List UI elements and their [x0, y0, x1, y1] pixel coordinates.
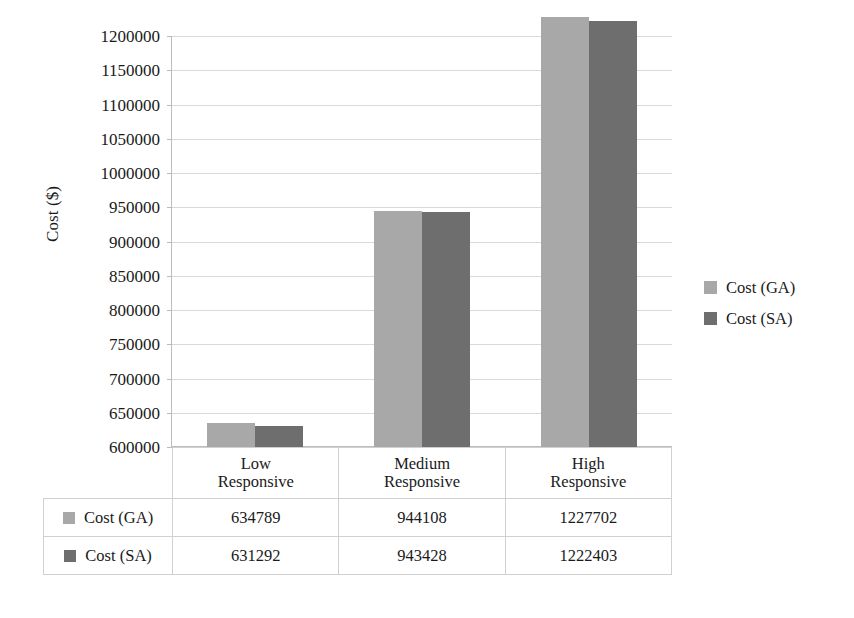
y-axis-tick-label: 800000 — [60, 302, 160, 319]
table-value-cell: 631292 — [173, 537, 339, 575]
y-axis-tick-label: 850000 — [60, 267, 160, 284]
series-color-swatch — [63, 512, 75, 524]
y-axis-tick-label: 1150000 — [60, 62, 160, 79]
bar — [541, 17, 589, 447]
table-row: Cost (GA)6347899441081227702 — [44, 499, 672, 537]
bar — [255, 426, 303, 447]
legend-entry: Cost (SA) — [704, 303, 844, 334]
legend-label: Cost (GA) — [726, 278, 795, 298]
table-value-cell: 1222403 — [505, 537, 671, 575]
bar — [422, 212, 470, 447]
series-color-swatch — [64, 550, 76, 562]
bar-chart-figure: Cost ($) 1200000115000011000001050000100… — [0, 0, 854, 618]
table-value-cell: 634789 — [173, 499, 339, 537]
category-label-line: Low — [173, 455, 338, 473]
y-axis-tick-label: 1000000 — [60, 165, 160, 182]
y-axis-tick-labels: 1200000115000011000001050000100000095000… — [66, 36, 166, 447]
category-label-line: Medium — [339, 455, 504, 473]
category-label-line: Responsive — [339, 473, 504, 491]
y-axis-tick-label: 750000 — [60, 336, 160, 353]
series-name: Cost (GA) — [84, 508, 153, 527]
table-corner-cell — [44, 448, 173, 499]
category-label-line: Responsive — [173, 473, 338, 491]
x-axis-category-label: LowResponsive — [173, 448, 339, 499]
y-axis-tick-label: 900000 — [60, 233, 160, 250]
y-axis-tick-label: 950000 — [60, 199, 160, 216]
chart-legend: Cost (GA)Cost (SA) — [704, 272, 844, 334]
series-name: Cost (SA) — [85, 546, 151, 565]
legend-entry: Cost (GA) — [704, 272, 844, 303]
table-value-cell: 943428 — [339, 537, 505, 575]
data-table: LowResponsiveMediumResponsiveHighRespons… — [43, 447, 672, 575]
bar-group — [505, 36, 672, 447]
x-axis-category-label: HighResponsive — [505, 448, 671, 499]
bar-group — [339, 36, 506, 447]
y-axis-tick-label: 1100000 — [60, 96, 160, 113]
plot-area — [172, 36, 672, 447]
legend-color-swatch — [704, 312, 717, 325]
y-axis-tick-label: 700000 — [60, 370, 160, 387]
table-value-cell: 1227702 — [505, 499, 671, 537]
y-axis-tick-label: 650000 — [60, 404, 160, 421]
category-label-line: Responsive — [506, 473, 671, 491]
y-axis-tick-label: 1050000 — [60, 130, 160, 147]
legend-label: Cost (SA) — [726, 309, 792, 329]
bar — [589, 21, 637, 447]
bar-group — [172, 36, 339, 447]
category-header-row: LowResponsiveMediumResponsiveHighRespons… — [44, 448, 672, 499]
y-axis-tick-label: 1200000 — [60, 28, 160, 45]
table-row: Cost (SA)6312929434281222403 — [44, 537, 672, 575]
legend-color-swatch — [704, 281, 717, 294]
table-series-label-cell: Cost (GA) — [44, 499, 173, 537]
category-label-line: High — [506, 455, 671, 473]
x-axis-category-label: MediumResponsive — [339, 448, 505, 499]
table-series-label-cell: Cost (SA) — [44, 537, 173, 575]
bar — [374, 211, 422, 447]
table-value-cell: 944108 — [339, 499, 505, 537]
bar — [207, 423, 255, 447]
